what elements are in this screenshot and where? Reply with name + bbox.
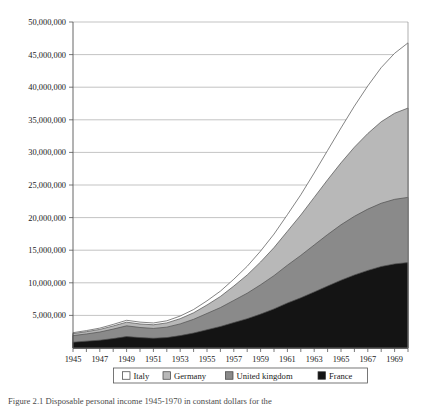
legend-label-france[interactable]: France [329,371,353,381]
y-axis-tick-label: 5,000,000 [33,311,67,320]
legend-swatch-germany[interactable] [163,372,171,380]
x-axis-tick-label: 1961 [279,355,296,364]
figure-caption: Figure 2.1 Disposable personal income 19… [8,396,417,407]
legend-label-italy[interactable]: Italy [134,371,150,381]
x-axis-tick-label: 1947 [91,355,108,364]
y-axis-tick-label: 40,000,000 [28,83,66,92]
legend-swatch-italy[interactable] [123,372,131,380]
x-axis-tick-label: 1959 [252,355,269,364]
legend-swatch-france[interactable] [318,372,326,380]
x-axis-tick-label: 1957 [225,355,242,364]
x-axis-tick-label: 1963 [306,355,323,364]
legend-swatch-united-kingdom[interactable] [226,372,234,380]
figure-container: 5,000,00010,000,00015,000,00020,000,0002… [0,0,425,408]
x-axis-tick-label: 1955 [199,355,216,364]
y-axis-tick-label: 20,000,000 [28,214,66,223]
legend-label-united-kingdom[interactable]: United kingdom [237,371,293,381]
legend-label-germany[interactable]: Germany [174,371,207,381]
y-axis-tick-label: 10,000,000 [28,279,66,288]
y-axis-tick-label: 50,000,000 [28,18,66,27]
x-axis-tick-label: 1953 [172,355,189,364]
y-axis-tick-label: 25,000,000 [28,181,66,190]
x-axis-tick-label: 1949 [118,355,135,364]
y-axis-tick-label: 30,000,000 [28,148,66,157]
x-axis-tick-label: 1951 [145,355,162,364]
stacked-area-chart: 5,000,00010,000,00015,000,00020,000,0002… [0,0,425,408]
y-axis-tick-label: 15,000,000 [28,246,66,255]
x-axis-tick-label: 1967 [359,355,376,364]
y-axis-tick-label: 35,000,000 [28,116,66,125]
x-axis-tick-label: 1945 [65,355,82,364]
x-axis-tick-label: 1965 [333,355,350,364]
x-axis-tick-label: 1969 [386,355,403,364]
y-axis-tick-label: 45,000,000 [28,51,66,60]
